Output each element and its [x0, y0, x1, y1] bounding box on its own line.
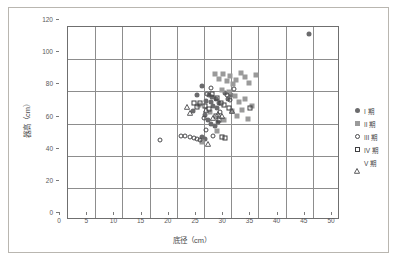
- legend-marker-open-circle-icon: [355, 134, 360, 139]
- legend-label: IV 期: [364, 145, 379, 155]
- data-point-open-circle: [204, 91, 209, 96]
- legend-item-3[interactable]: III 期: [353, 130, 399, 143]
- y-tick-mark: [56, 148, 59, 149]
- gridline-vertical: [150, 27, 151, 218]
- y-tick-label: 20: [29, 176, 53, 183]
- legend-marker-open-triangle-icon: [353, 160, 361, 166]
- x-tick-label: 40: [273, 217, 280, 224]
- data-point-open-square: [195, 105, 200, 110]
- legend-marker-filled-square-icon: [355, 121, 360, 126]
- gridline-vertical: [122, 27, 123, 218]
- legend-item-2[interactable]: II 期: [353, 117, 399, 130]
- data-point-open-circle: [198, 137, 203, 142]
- y-tick-mark: [56, 212, 59, 213]
- data-point-filled-square: [224, 78, 229, 83]
- legend-marker-open-square-icon: [353, 147, 361, 152]
- data-point-filled-square: [239, 107, 244, 112]
- data-point-filled-square: [233, 94, 238, 99]
- legend-item-4[interactable]: IV 期: [353, 143, 399, 156]
- x-tick-mark: [249, 212, 250, 215]
- data-point-open-square: [223, 136, 228, 141]
- y-tick-mark: [56, 51, 59, 52]
- gridline-vertical: [177, 27, 178, 218]
- gridline-horizontal: [68, 188, 338, 189]
- legend-item-1[interactable]: I 期: [353, 104, 399, 117]
- x-tick-label: 20: [164, 217, 171, 224]
- legend-marker-filled-circle-icon: [353, 108, 361, 113]
- x-tick-mark: [113, 212, 114, 215]
- legend-marker-open-triangle-icon: [354, 160, 360, 166]
- data-point-filled-square: [216, 76, 221, 81]
- data-point-filled-square: [220, 87, 225, 92]
- gridline-vertical: [258, 27, 259, 218]
- data-point-open-triangle: [219, 105, 225, 111]
- data-point-open-triangle: [205, 133, 211, 139]
- x-tick-label: 0: [57, 217, 61, 224]
- data-point-filled-circle: [306, 32, 311, 37]
- data-point-filled-circle: [200, 83, 205, 88]
- gridline-horizontal: [68, 124, 338, 125]
- legend-item-5[interactable]: V 期: [353, 156, 399, 169]
- data-point-filled-square: [214, 128, 219, 133]
- y-tick-mark: [56, 83, 59, 84]
- x-tick-label: 35: [246, 217, 253, 224]
- legend-label: I 期: [364, 106, 375, 116]
- data-point-open-circle: [209, 86, 214, 91]
- data-point-filled-square: [227, 74, 232, 79]
- data-point-open-square: [248, 106, 253, 111]
- x-tick-label: 15: [137, 217, 144, 224]
- legend-marker-open-square-icon: [355, 147, 360, 152]
- x-tick-mark: [331, 212, 332, 215]
- x-tick-mark: [304, 212, 305, 215]
- y-tick-label: 60: [29, 112, 53, 119]
- gridline-vertical: [286, 27, 287, 218]
- gridline-horizontal: [68, 59, 338, 60]
- gridline-vertical: [231, 27, 232, 218]
- y-tick-label: 0: [29, 209, 53, 216]
- data-point-filled-square: [221, 71, 226, 76]
- data-point-filled-square: [246, 116, 251, 121]
- x-tick-label: 30: [219, 217, 226, 224]
- data-point-open-triangle: [229, 100, 235, 106]
- gridline-vertical: [204, 27, 205, 218]
- y-tick-mark: [56, 19, 59, 20]
- gridline-vertical: [95, 27, 96, 218]
- x-tick-mark: [195, 212, 196, 215]
- y-tick-label: 120: [29, 16, 53, 23]
- x-tick-label: 45: [300, 217, 307, 224]
- legend-marker-filled-circle-icon: [355, 108, 360, 113]
- legend-marker-filled-square-icon: [353, 121, 361, 126]
- x-tick-mark: [141, 212, 142, 215]
- data-point-open-circle: [201, 115, 206, 120]
- y-axis-title: 器高（cm）: [21, 100, 32, 138]
- x-axis-title: 底径（cm）: [173, 234, 211, 245]
- y-tick-mark: [56, 180, 59, 181]
- x-tick-mark: [168, 212, 169, 215]
- y-tick-label: 100: [29, 48, 53, 55]
- y-tick-label: 80: [29, 80, 53, 87]
- data-point-open-triangle: [203, 99, 209, 105]
- x-tick-mark: [59, 212, 60, 215]
- data-point-filled-square: [253, 73, 258, 78]
- x-tick-mark: [277, 212, 278, 215]
- chart-legend: I 期II 期III 期IV 期V 期: [353, 104, 399, 169]
- plot-area: [67, 26, 339, 219]
- x-tick-label: 10: [110, 217, 117, 224]
- data-point-open-triangle: [187, 102, 193, 108]
- data-point-open-triangle: [184, 96, 190, 102]
- legend-marker-open-circle-icon: [353, 134, 361, 139]
- legend-label: V 期: [364, 158, 377, 168]
- y-tick-label: 40: [29, 144, 53, 151]
- data-point-open-circle: [211, 134, 216, 139]
- data-point-filled-square: [236, 99, 241, 104]
- x-tick-label: 25: [191, 217, 198, 224]
- gridline-horizontal: [68, 156, 338, 157]
- x-tick-label: 50: [327, 217, 334, 224]
- data-point-filled-square: [235, 113, 240, 118]
- legend-label: III 期: [364, 132, 378, 142]
- x-tick-label: 5: [84, 217, 88, 224]
- data-point-open-circle: [232, 86, 237, 91]
- gridline-horizontal: [68, 91, 338, 92]
- data-point-filled-square: [242, 74, 247, 79]
- data-point-open-triangle: [210, 107, 216, 113]
